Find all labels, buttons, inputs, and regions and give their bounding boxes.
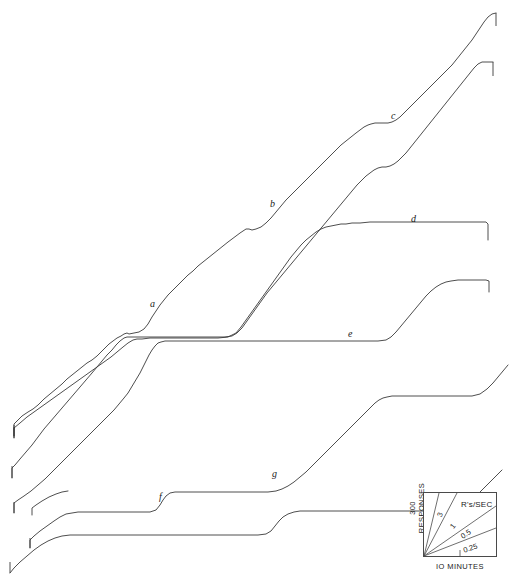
- rate-line-3: [424, 493, 439, 556]
- curve-label-e: e: [348, 329, 352, 339]
- curve-label-a: a: [150, 299, 155, 309]
- legend-x-axis-label: IO MINUTES: [418, 562, 502, 571]
- rate-scale-legend: 300 RESPONSES R's/SEC 3 1 0.5 0.25 IO MI…: [404, 478, 516, 578]
- cumulative-record-figure: a b c d e f g 300 RESPONSES R's/SEC 3 1 …: [0, 0, 522, 583]
- curve-label-d: d: [411, 214, 416, 224]
- legend-rate-unit-label: R's/SEC: [461, 500, 492, 509]
- record-trace-lower-left: [32, 491, 68, 515]
- record-trace-2: [12, 62, 493, 478]
- record-trace-d: [14, 222, 488, 436]
- curve-label-g: g: [272, 469, 277, 479]
- curve-label-b: b: [270, 199, 275, 209]
- curve-label-c: c: [391, 111, 395, 121]
- curve-label-f: f: [159, 492, 162, 502]
